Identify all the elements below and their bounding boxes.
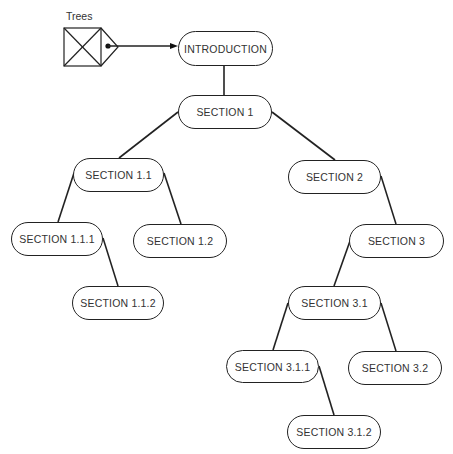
node-section-1-1[interactable]: SECTION 1.1 (73, 158, 164, 192)
node-introduction[interactable]: INTRODUCTION (178, 31, 273, 66)
node-section-2[interactable]: SECTION 2 (288, 160, 381, 194)
node-section-1-1-1[interactable]: SECTION 1.1.1 (11, 222, 103, 256)
node-section-3-1-2[interactable]: SECTION 3.1.2 (287, 415, 381, 449)
arrowhead-icon (170, 43, 178, 49)
node-section-3[interactable]: SECTION 3 (349, 224, 444, 258)
node-section-3-1[interactable]: SECTION 3.1 (288, 286, 381, 320)
node-section-3-2[interactable]: SECTION 3.2 (348, 351, 442, 385)
node-section-1-1-2[interactable]: SECTION 1.1.2 (72, 286, 164, 320)
node-section-1-2[interactable]: SECTION 1.2 (133, 224, 227, 258)
trees-label: Trees (66, 10, 92, 22)
node-section-1[interactable]: SECTION 1 (178, 95, 272, 129)
node-section-3-1-1[interactable]: SECTION 3.1.1 (226, 350, 319, 383)
